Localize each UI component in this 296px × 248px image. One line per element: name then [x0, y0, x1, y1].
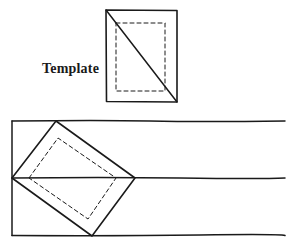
- board-middle-line: [12, 178, 285, 179]
- rotated-template-dashed: [29, 138, 116, 219]
- template-figure: [106, 10, 177, 102]
- diagram-canvas: [0, 0, 296, 248]
- board-bottom-line: [12, 235, 285, 236]
- template-label: Template: [42, 61, 99, 77]
- board-top-line: [12, 121, 285, 122]
- board-figure: [12, 121, 285, 237]
- template-diagonal: [106, 10, 177, 102]
